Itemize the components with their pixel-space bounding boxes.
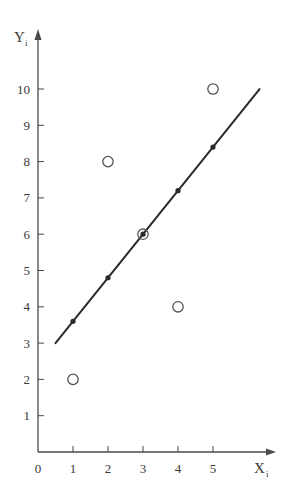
axis-labels: 01234512345678910XiYi [14, 29, 269, 479]
y-axis-arrow-icon [35, 29, 42, 40]
x-tick-label: 0 [35, 461, 42, 476]
axis-ticks [38, 89, 213, 452]
regression-line-path [56, 89, 260, 343]
y-tick-label: 6 [24, 227, 31, 242]
y-tick-label: 1 [24, 408, 31, 423]
x-axis-arrow-icon [266, 449, 276, 456]
x-tick-label: 2 [105, 461, 112, 476]
x-axis-title-subscript: i [266, 469, 269, 479]
y-tick-label: 9 [24, 118, 31, 133]
y-tick-label: 2 [24, 372, 31, 387]
y-tick-label: 10 [17, 82, 30, 97]
y-axis-title-subscript: i [25, 38, 28, 48]
fitted-point-marker [210, 144, 215, 149]
y-tick-label: 7 [24, 190, 31, 205]
fitted-point-marker [175, 188, 180, 193]
fitted-point-marker [70, 319, 75, 324]
observed-point-marker [68, 374, 78, 384]
y-tick-label: 5 [24, 263, 31, 278]
axes [35, 29, 277, 456]
y-axis-title: Y [14, 29, 25, 45]
y-tick-label: 3 [24, 336, 31, 351]
x-tick-label: 4 [175, 461, 182, 476]
observed-point-marker [208, 84, 218, 94]
scatter-chart: 01234512345678910XiYi [0, 0, 288, 494]
fitted-point-marker [105, 275, 110, 280]
y-tick-label: 8 [24, 154, 31, 169]
regression-line [56, 89, 260, 343]
observed-point-marker [173, 302, 183, 312]
y-tick-label: 4 [24, 299, 31, 314]
x-tick-label: 1 [70, 461, 77, 476]
observed-point-marker [103, 156, 113, 166]
x-tick-label: 5 [210, 461, 217, 476]
x-axis-title: X [254, 460, 265, 476]
fitted-point-marker [140, 232, 145, 237]
x-tick-label: 3 [140, 461, 147, 476]
